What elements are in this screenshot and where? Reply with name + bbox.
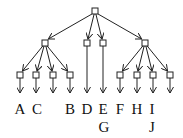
- edge-root-n1: [48, 14, 92, 39]
- leaf-label-j: J: [149, 119, 155, 135]
- edge-root-n3: [96, 14, 102, 39]
- edge-n4-n9: [122, 46, 142, 71]
- root-node: [92, 8, 98, 14]
- leaf-label-b: B: [65, 101, 75, 117]
- edge-root-n2: [88, 14, 94, 39]
- edge-n4-n11: [146, 46, 152, 71]
- node-n2: [84, 40, 90, 46]
- node-n11: [150, 72, 156, 78]
- tree-nodes: [17, 8, 173, 78]
- node-n8: [67, 72, 73, 78]
- leaf-label-i: I: [150, 101, 155, 117]
- leaf-label-g: G: [99, 119, 110, 135]
- leaf-label-d: D: [82, 101, 93, 117]
- leaf-label-h: H: [132, 101, 143, 117]
- leaf-label-c: C: [32, 101, 42, 117]
- node-n3: [100, 40, 106, 46]
- tree-edges: [20, 14, 170, 93]
- leaf-labels: ACBDEFHIGJ: [15, 101, 156, 135]
- edge-n4-n10: [138, 46, 144, 71]
- leaf-label-e: E: [98, 101, 107, 117]
- node-n10: [134, 72, 140, 78]
- edge-n4-n12: [147, 46, 167, 71]
- tree-diagram: ACBDEFHIGJ: [0, 0, 183, 138]
- leaf-label-a: A: [15, 101, 26, 117]
- node-n12: [167, 72, 173, 78]
- edge-n1-n8: [47, 46, 67, 71]
- edge-n1-n6: [37, 46, 44, 71]
- leaf-label-f: F: [116, 101, 124, 117]
- node-n7: [50, 72, 56, 78]
- node-n5: [17, 72, 23, 78]
- edge-root-n4: [98, 14, 142, 39]
- node-n9: [117, 72, 123, 78]
- edge-n1-n7: [46, 46, 52, 71]
- edge-n1-n5: [22, 46, 42, 71]
- node-n6: [33, 72, 39, 78]
- node-n4: [142, 40, 148, 46]
- node-n1: [42, 40, 48, 46]
